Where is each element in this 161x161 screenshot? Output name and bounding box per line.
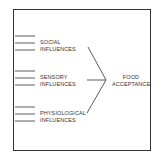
- social-influences-label: SOCIAL INFLUENCES: [40, 39, 76, 53]
- food-acceptance-label: FOOD ACCEPTANCE: [112, 74, 150, 88]
- sensory-influences-label: SENSORY INFLUENCES: [40, 74, 76, 88]
- physiological-influences-label: PHYSIOLOGICAL INFLUENCES: [40, 110, 86, 124]
